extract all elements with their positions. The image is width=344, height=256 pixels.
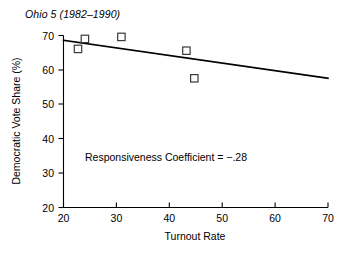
y-tick-label: 20 (42, 202, 54, 214)
data-point-marker (81, 35, 88, 42)
data-point-marker (74, 45, 81, 52)
regression-line (64, 40, 329, 78)
data-point-marker (191, 75, 198, 82)
y-tick-label: 50 (42, 98, 54, 110)
y-axis-ticks (59, 36, 64, 208)
x-axis-title: Turnout Rate (165, 230, 226, 242)
x-tick-label: 30 (111, 212, 123, 224)
axis-lines (64, 36, 329, 208)
y-tick-label: 70 (42, 30, 54, 42)
y-tick-label: 60 (42, 64, 54, 76)
x-axis-ticks (64, 203, 329, 208)
y-tick-label: 40 (42, 133, 54, 145)
x-tick-label: 60 (269, 212, 281, 224)
x-tick-label: 20 (58, 212, 70, 224)
y-axis-tick-labels: 70 60 50 40 30 20 (42, 30, 54, 214)
y-tick-label: 30 (42, 167, 54, 179)
chart-figure: Ohio 5 (1982–1990) 70 60 50 40 (0, 0, 344, 256)
data-point-marker (118, 33, 125, 40)
scatter-plot: 70 60 50 40 30 20 20 30 40 50 60 70 Turn… (0, 0, 344, 256)
y-axis-title: Democratic Vote Share (%) (10, 57, 22, 184)
x-tick-label: 50 (216, 212, 228, 224)
x-tick-label: 40 (163, 212, 175, 224)
data-point-marker (183, 47, 190, 54)
responsiveness-coefficient-annotation: Responsiveness Coefficient = −.28 (85, 151, 247, 163)
x-tick-label: 70 (322, 212, 334, 224)
x-axis-tick-labels: 20 30 40 50 60 70 (58, 212, 334, 224)
